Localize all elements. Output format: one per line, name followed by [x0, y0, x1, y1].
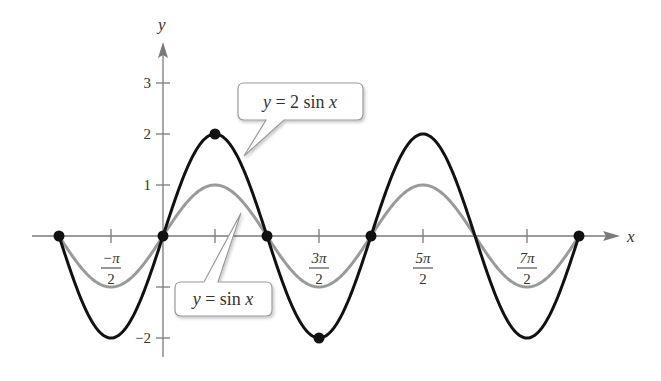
y-axis-label: y: [156, 15, 166, 34]
point-marker: [366, 231, 377, 242]
svg-text:2: 2: [315, 271, 323, 287]
point-marker: [574, 231, 585, 242]
callout-sin-x-text: y = sin x: [191, 289, 254, 309]
axes: x y: [32, 15, 635, 357]
point-marker: [314, 333, 325, 344]
callout-two-sin-x-text: y = 2 sin x: [261, 92, 337, 112]
point-marker: [262, 231, 273, 242]
y-tick-label: 2: [144, 126, 152, 142]
y-tick-label: 3: [144, 75, 152, 91]
sine-graph: x y −π23π25π27π2321−2 y = 2 sin x y = si…: [0, 0, 661, 381]
y-tick-label: −2: [135, 330, 151, 346]
svg-text:5π: 5π: [415, 250, 431, 266]
y-tick-label: 1: [144, 177, 152, 193]
x-tick-label: 7π2: [517, 250, 537, 287]
point-marker: [158, 231, 169, 242]
svg-text:2: 2: [107, 271, 115, 287]
svg-text:2: 2: [419, 271, 427, 287]
svg-text:7π: 7π: [519, 250, 535, 266]
svg-text:3π: 3π: [310, 250, 327, 266]
x-tick-label: 3π2: [309, 250, 329, 287]
svg-text:2: 2: [523, 271, 531, 287]
x-axis-label: x: [626, 227, 635, 246]
point-marker: [53, 231, 64, 242]
x-tick-label: 5π2: [413, 250, 433, 287]
svg-text:−π: −π: [102, 250, 120, 266]
x-tick-label: −π2: [101, 250, 121, 287]
point-marker: [210, 129, 221, 140]
